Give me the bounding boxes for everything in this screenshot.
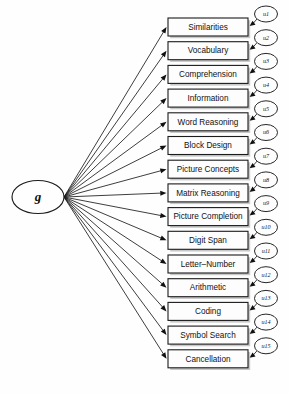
arrow-head — [160, 168, 167, 173]
error-label-u3: u3 — [263, 58, 269, 64]
loading-path-14 — [64, 197, 163, 331]
indicator-label: Word Reasoning — [178, 118, 239, 127]
indicator-label: Digit Span — [189, 236, 227, 245]
error-label-u7: u7 — [263, 153, 270, 159]
arrow-head — [160, 213, 167, 218]
loading-path-8 — [64, 193, 161, 197]
indicator-label: Arithmetic — [190, 283, 226, 292]
loading-path-2 — [64, 55, 163, 197]
loading-path-3 — [64, 79, 163, 197]
error-label-u2: u2 — [263, 35, 269, 41]
error-label-u11: u11 — [262, 248, 271, 254]
arrow-head — [161, 352, 166, 359]
latent-variable-g[interactable]: g — [12, 181, 64, 214]
path-diagram: SimilaritiesVocabularyComprehensionInfor… — [0, 0, 289, 395]
error-ellipses: u1u2u3u4u5u6u7u8u9u10u11u12u13u14u15 — [255, 6, 278, 354]
error-label-u12: u12 — [261, 272, 270, 278]
error-label-u1: u1 — [263, 11, 269, 17]
indicator-label: Similarities — [188, 23, 228, 32]
arrow-head — [160, 146, 167, 151]
arrow-head — [161, 27, 166, 34]
indicator-label: Block Design — [184, 141, 232, 150]
arrow-head — [160, 259, 167, 264]
indicator-label: Letter–Number — [181, 260, 236, 269]
indicator-label: Information — [188, 94, 229, 103]
indicator-label: Symbol Search — [180, 331, 236, 340]
loading-path-12 — [64, 197, 162, 284]
loading-path-5 — [64, 125, 162, 197]
indicator-label: Vocabulary — [188, 46, 229, 55]
error-label-u14: u14 — [261, 319, 270, 325]
arrow-head — [161, 329, 167, 335]
indicator-label: Comprehension — [179, 70, 237, 79]
loading-path-10 — [64, 197, 161, 238]
arrow-head — [161, 51, 167, 58]
indicator-label: Picture Completion — [173, 212, 243, 221]
indicator-label: Picture Concepts — [177, 165, 239, 174]
indicator-label: Matrix Reasoning — [176, 189, 240, 198]
indicator-boxes: SimilaritiesVocabularyComprehensionInfor… — [168, 18, 250, 370]
error-label-u10: u10 — [261, 224, 270, 230]
error-label-u5: u5 — [263, 106, 269, 112]
indicator-label: Coding — [195, 307, 221, 316]
loading-path-7 — [64, 171, 161, 197]
arrow-head — [160, 236, 167, 241]
diagram-canvas: SimilaritiesVocabularyComprehensionInfor… — [0, 0, 289, 395]
error-paths — [250, 18, 258, 357]
error-label-u4: u4 — [263, 82, 269, 88]
indicator-label: Cancellation — [185, 355, 231, 364]
error-label-u15: u15 — [261, 343, 270, 349]
arrow-head — [160, 191, 166, 196]
error-label-u8: u8 — [263, 177, 269, 183]
loading-path-4 — [64, 102, 162, 197]
latent-label: g — [34, 189, 42, 204]
loading-path-15 — [64, 197, 164, 354]
error-label-u9: u9 — [263, 200, 269, 206]
arrow-head — [160, 122, 166, 128]
factor-loading-paths — [64, 27, 167, 359]
error-label-u13: u13 — [261, 295, 270, 301]
error-label-u6: u6 — [263, 129, 270, 135]
